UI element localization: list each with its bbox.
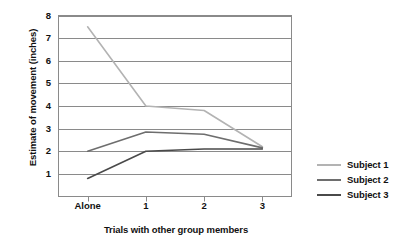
legend-label: Subject 1 <box>347 159 388 170</box>
legend-line-swatch <box>317 194 341 196</box>
x-axis-title: Trials with other group members <box>58 224 294 235</box>
x-tick-marks-group <box>89 197 263 202</box>
legend: Subject 1Subject 2Subject 3 <box>317 157 388 202</box>
legend-item-subject-2[interactable]: Subject 2 <box>317 172 388 187</box>
legend-item-subject-1[interactable]: Subject 1 <box>317 157 388 172</box>
legend-label: Subject 2 <box>347 174 388 185</box>
series-line-3 <box>88 149 263 178</box>
legend-label: Subject 3 <box>347 189 388 200</box>
series-line-1 <box>88 27 263 147</box>
x-tick-label: Alone <box>74 200 100 211</box>
y-tick-label: 5 <box>37 77 51 88</box>
legend-item-subject-3[interactable]: Subject 3 <box>317 187 388 202</box>
y-tick-label: 4 <box>37 100 51 111</box>
y-tick-label: 6 <box>37 55 51 66</box>
y-tick-label: 8 <box>37 10 51 21</box>
y-tick-label: 1 <box>37 168 51 179</box>
x-tick-label: 1 <box>143 200 148 211</box>
movement-estimate-line-chart: Estimate of movement (inches) 12345678 A… <box>0 0 402 244</box>
y-tick-label: 3 <box>37 123 51 134</box>
series-lines-group <box>88 27 263 179</box>
x-tick-label: 3 <box>260 200 265 211</box>
y-tick-label: 7 <box>37 32 51 43</box>
legend-line-swatch <box>317 164 341 166</box>
legend-line-swatch <box>317 179 341 181</box>
y-tick-label: 2 <box>37 145 51 156</box>
x-tick-label: 2 <box>201 200 206 211</box>
